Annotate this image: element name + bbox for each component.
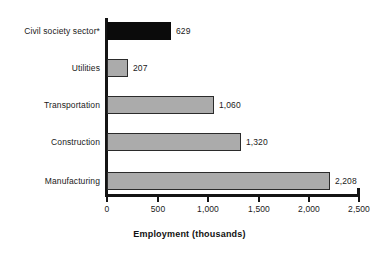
x-tick-label: 2,500 <box>348 204 370 214</box>
x-tick-label: 1,500 <box>248 204 270 214</box>
bar-row: Construction 1,320 <box>0 133 379 151</box>
bar-civil-society-sector[interactable] <box>107 22 171 40</box>
category-label: Transportation <box>0 100 100 110</box>
employment-bar-chart: Civil society sector* 629 Utilities 207 … <box>0 0 379 256</box>
category-label: Construction <box>0 137 100 147</box>
bar-row: Manufacturing 2,208 <box>0 172 379 190</box>
x-tick-mark <box>157 197 159 202</box>
category-label: Manufacturing <box>0 176 100 186</box>
bar-value-label: 629 <box>176 26 190 36</box>
x-tick-label: 0 <box>105 204 110 214</box>
bar-row: Transportation 1,060 <box>0 96 379 114</box>
x-axis-title: Employment (thousands) <box>0 229 379 239</box>
x-tick-mark <box>358 197 360 202</box>
bar-manufacturing[interactable] <box>107 172 330 190</box>
bar-value-label: 1,060 <box>219 100 241 110</box>
x-tick-label: 500 <box>151 204 165 214</box>
x-tick-mark <box>106 197 108 202</box>
x-tick-mark <box>258 197 260 202</box>
x-tick-mark <box>207 197 209 202</box>
bar-construction[interactable] <box>107 133 241 151</box>
x-tick-label: 1,000 <box>197 204 219 214</box>
x-tick-mark <box>308 197 310 202</box>
bar-transportation[interactable] <box>107 96 214 114</box>
bar-row: Utilities 207 <box>0 59 379 77</box>
bar-value-label: 207 <box>133 63 147 73</box>
bar-value-label: 1,320 <box>246 137 268 147</box>
category-label: Utilities <box>0 63 100 73</box>
bar-value-label: 2,208 <box>335 176 357 186</box>
x-tick-label: 2,000 <box>298 204 320 214</box>
x-axis-line <box>105 194 360 197</box>
category-label: Civil society sector* <box>0 26 100 36</box>
bar-utilities[interactable] <box>107 59 128 77</box>
bar-row: Civil society sector* 629 <box>0 22 379 40</box>
